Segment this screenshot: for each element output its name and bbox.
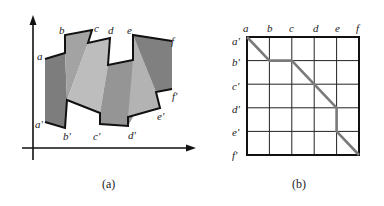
x-axis-arrow-icon [186, 145, 196, 152]
caption-a: (a) [102, 177, 115, 191]
label-c-prime: c' [93, 130, 101, 142]
label-e-prime: e' [157, 110, 165, 122]
label-a: a [37, 50, 43, 62]
label-b-prime: b' [63, 130, 72, 142]
figure-canvas: a b c d e f a' b' c' d' e' f' (a) a [0, 0, 384, 206]
col-label-e: e [335, 22, 340, 34]
col-label-f: f [356, 22, 361, 34]
label-d-prime: d' [128, 129, 137, 141]
col-label-c: c [289, 22, 294, 34]
label-f-prime: f' [172, 90, 178, 102]
label-f: f [171, 35, 176, 47]
region-a-b-dark [45, 53, 67, 128]
figure-a: a b c d e f a' b' c' d' e' f' (a) [22, 15, 196, 191]
figure-b: a b c d e f a' b' c' d' e' f' (b) [232, 22, 361, 191]
col-label-a: a [243, 22, 249, 34]
row-label-f-prime: f' [232, 149, 238, 161]
row-label-e-prime: e' [232, 126, 240, 138]
caption-b: (b) [292, 177, 306, 191]
y-axis-arrow-icon [30, 15, 37, 25]
row-label-b-prime: b' [232, 56, 241, 68]
row-label-d-prime: d' [232, 103, 241, 115]
row-label-c-prime: c' [232, 80, 240, 92]
label-e: e [127, 24, 132, 36]
col-label-b: b [267, 22, 273, 34]
label-a-prime: a' [35, 118, 44, 130]
label-d: d [108, 24, 114, 36]
correspondence-path [247, 37, 359, 155]
row-label-a-prime: a' [232, 35, 241, 47]
label-c: c [94, 22, 99, 34]
col-label-d: d [313, 22, 319, 34]
label-b: b [59, 24, 65, 36]
